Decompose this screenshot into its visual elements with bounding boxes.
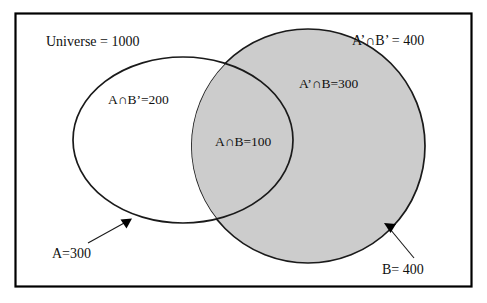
set-b-label: B= 400 <box>382 262 424 277</box>
venn-diagram-canvas: Universe = 1000 A’∩B’ = 400 A∩B’=200 A’∩… <box>0 0 487 303</box>
venn-diagram: Universe = 1000 A’∩B’ = 400 A∩B’=200 A’∩… <box>0 0 487 303</box>
region-neither-label: A’∩B’ = 400 <box>352 33 424 48</box>
universe-label: Universe = 1000 <box>46 34 139 49</box>
region-b-only-label: A’∩B=300 <box>299 76 359 91</box>
set-a-label: A=300 <box>52 246 91 261</box>
region-a-only-label: A∩B’=200 <box>108 92 169 107</box>
region-intersection-label: A∩B=100 <box>215 134 272 149</box>
